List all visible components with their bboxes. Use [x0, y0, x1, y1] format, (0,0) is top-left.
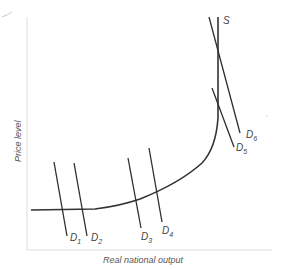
demand-label-d6: D6: [246, 129, 257, 142]
demand-label-d3: D3: [141, 231, 152, 244]
diagram-canvas: S D1 D2 D3 D4 D5 D6 Real national output…: [0, 0, 289, 269]
demand-label-d4: D4: [162, 225, 173, 238]
demand-label-d2: D2: [91, 232, 102, 245]
supply-curve-s: [31, 17, 218, 210]
scan-speck: [266, 115, 268, 117]
demand-curve-d2: [74, 163, 87, 236]
x-axis-label: Real national output: [103, 255, 184, 265]
demand-curve-d6: [209, 17, 240, 133]
demand-curve-d3: [128, 158, 141, 228]
demand-curve-d1: [54, 162, 67, 236]
demand-curve-d4: [149, 148, 162, 222]
y-axis-label: Price level: [13, 119, 23, 162]
supply-label: S: [223, 15, 230, 26]
demand-label-d1: D1: [70, 232, 81, 245]
scan-mark: [2, 12, 12, 17]
demand-label-d5: D5: [236, 142, 247, 155]
